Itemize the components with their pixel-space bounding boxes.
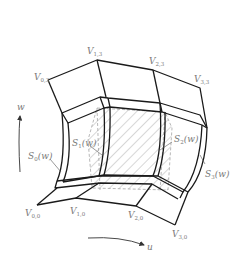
surface-patch-diagram: V0,3 V1,3 V2,3 V3,3 V0,0 V1,0 V2,0 V3,0 …: [0, 0, 240, 271]
u-axis-arrow: u: [88, 238, 153, 252]
label-v13: V1,3: [87, 46, 103, 57]
label-u: u: [147, 242, 153, 252]
label-v03: V0,3: [34, 72, 50, 83]
label-v20: V2,0: [128, 210, 144, 221]
label-s3: S3(w): [205, 169, 230, 180]
label-s1: S1(w): [72, 138, 97, 149]
label-s0: S0(w): [28, 151, 53, 162]
label-v23: V2,3: [149, 56, 165, 67]
label-w: w: [17, 102, 25, 112]
w-axis-arrow: w: [17, 102, 25, 172]
label-v00: V0,0: [25, 208, 41, 219]
label-v33: V3,3: [194, 74, 210, 85]
label-v10: V1,0: [70, 206, 86, 217]
label-s2: S2(w): [174, 134, 199, 145]
curve-s0: [57, 113, 69, 182]
label-v30: V3,0: [172, 229, 188, 240]
